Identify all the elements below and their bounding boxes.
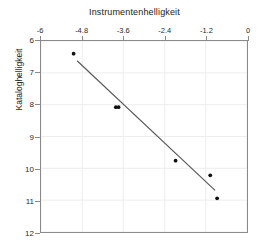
x-tick-label: -3.6 bbox=[117, 26, 130, 35]
x-tick-label: 0 bbox=[246, 26, 250, 35]
y-tick-label: 11 bbox=[12, 196, 34, 205]
y-tick-label: 6 bbox=[12, 36, 34, 45]
x-tick-label: -4.8 bbox=[75, 26, 88, 35]
y-tick-label: 12 bbox=[12, 229, 34, 238]
x-axis-title: Instrumentenhelligkeit bbox=[0, 7, 269, 17]
data-point bbox=[117, 105, 121, 109]
data-point bbox=[215, 196, 219, 200]
x-tick-mark bbox=[248, 36, 249, 41]
x-tick-label: -1.2 bbox=[200, 26, 213, 35]
chart-figure: Instrumentenhelligkeit Kataloghelligkeit… bbox=[0, 0, 269, 247]
y-tick-label: 7 bbox=[12, 68, 34, 77]
plot-area bbox=[40, 40, 248, 233]
x-tick-label: -6 bbox=[37, 26, 44, 35]
data-point bbox=[208, 173, 212, 177]
x-tick-label: -2.4 bbox=[158, 26, 171, 35]
y-tick-mark bbox=[35, 233, 40, 234]
y-tick-label: 8 bbox=[12, 100, 34, 109]
regression-line bbox=[77, 61, 215, 191]
data-layer bbox=[41, 41, 247, 232]
y-tick-label: 9 bbox=[12, 132, 34, 141]
y-axis-title: Kataloghelligkeit bbox=[14, 0, 26, 176]
y-tick-label: 10 bbox=[12, 164, 34, 173]
data-point bbox=[174, 159, 178, 163]
data-point bbox=[72, 52, 76, 56]
